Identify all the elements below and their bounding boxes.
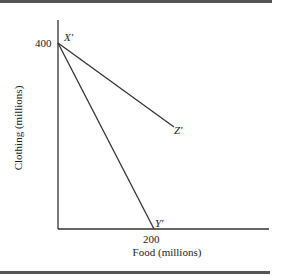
line-x-z bbox=[58, 43, 174, 127]
line-x-y bbox=[58, 43, 154, 229]
bottom-rule bbox=[0, 271, 270, 274]
y-axis-label: Clothing (millions) bbox=[12, 85, 25, 170]
point-z-label: Z' bbox=[174, 124, 183, 136]
x-tick-200: 200 bbox=[143, 233, 160, 245]
point-x-label: X' bbox=[63, 31, 74, 43]
chart: 400 X' Z' Y' 200 Food (millions) Clothin… bbox=[0, 0, 282, 276]
y-tick-400: 400 bbox=[35, 37, 52, 49]
point-y-label: Y' bbox=[155, 217, 164, 229]
top-rule bbox=[0, 0, 272, 3]
x-axis-label: Food (millions) bbox=[133, 246, 202, 259]
